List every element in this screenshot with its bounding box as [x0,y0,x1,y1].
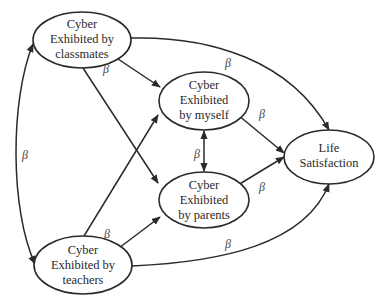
node-label-line: classmates [55,47,109,61]
node-label-line: Satisfaction [299,156,359,170]
node-label-line: Cyber [189,178,220,192]
node-label-line: Exhibited by [51,258,116,272]
beta-label-myself-parents: β [193,147,200,161]
beta-label-parents-life: β [258,180,265,194]
edge-classmates-parents [83,68,158,183]
node-label-line: Life [319,141,340,155]
node-label-line: Cyber [68,243,99,257]
node-life-satisfaction: Life Satisfaction [284,130,374,184]
node-label-line: teachers [63,273,104,287]
beta-label-classmates-life: β [224,56,231,70]
beta-label-teachers-life: β [224,237,231,251]
path-diagram: β β β β β β β β Cyber Exhibited by class… [0,0,392,304]
beta-label-myself-life: β [258,107,265,121]
node-label-line: Cyber [67,17,98,31]
node-cyber-exhibited-by-teachers: Cyber Exhibited by teachers [34,236,132,294]
node-cyber-exhibited-by-parents: Cyber Exhibited by parents [159,172,249,228]
beta-label-classmates-teachers: β [21,148,28,162]
node-label-line: Exhibited [180,193,229,207]
node-cyber-exhibited-by-myself: Cyber Exhibited by myself [159,72,249,130]
edge-teachers-myself [84,115,158,236]
node-label-line: Exhibited by [50,32,115,46]
node-cyber-exhibited-by-classmates: Cyber Exhibited by classmates [33,12,131,68]
node-label-line: Cyber [189,78,220,92]
node-label-line: Exhibited [180,93,229,107]
edge-classmates-myself [118,59,160,87]
node-label-line: by parents [178,208,230,222]
node-label-line: by myself [179,108,229,122]
edge-teachers-parents [119,217,160,248]
